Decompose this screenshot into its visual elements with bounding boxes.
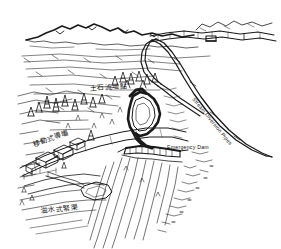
label-emergency-dam: Emergency Dam	[167, 144, 209, 150]
figure-canvas: Emergency Dam Stream Diversion Pipes 土石流…	[0, 0, 281, 249]
